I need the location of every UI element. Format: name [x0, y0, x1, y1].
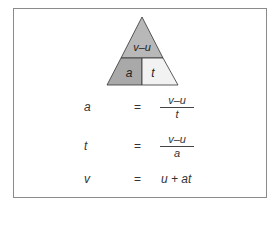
triangle-left-label: a	[126, 66, 133, 80]
equation-1-lhs: a	[84, 100, 91, 114]
equation-3-rhs: u + at	[161, 172, 191, 186]
equation-2-lhs: t	[84, 139, 87, 153]
equation-2-numerator: v–u	[160, 133, 194, 147]
equation-1-numerator: v–u	[160, 94, 194, 108]
equation-3-equals: =	[134, 172, 141, 186]
triangle-top-label: v–u	[133, 41, 151, 53]
equation-2-denominator: a	[160, 147, 194, 160]
equation-1-fraction: v–u t	[160, 94, 194, 121]
equation-1-equals: =	[134, 100, 141, 114]
equation-1-denominator: t	[160, 108, 194, 121]
triangle-bottom-left-section	[107, 58, 142, 85]
equation-2-equals: =	[134, 139, 141, 153]
equation-2-fraction: v–u a	[160, 133, 194, 160]
equation-3-lhs: v	[84, 172, 90, 186]
triangle-bottom-right-section	[142, 58, 178, 85]
